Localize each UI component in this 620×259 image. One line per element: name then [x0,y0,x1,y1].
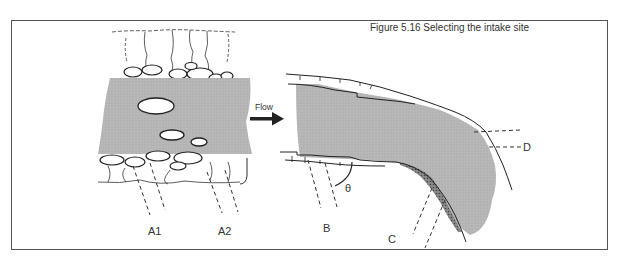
river-water-bend [296,84,496,235]
flow-label: Flow [255,102,274,112]
river-bend: θ B C D [280,74,531,248]
intake-site-diagram: A1 A2 Flow θ B [0,0,620,259]
arrow-shaft-icon [250,117,274,121]
label-a2: A2 [218,225,231,237]
straight-reach: A1 A2 [98,30,252,237]
arrow-head-icon [272,112,284,126]
upper-bank [112,30,235,72]
intake-a1 [133,163,165,215]
label-d: D [523,141,531,153]
flow-arrow: Flow [250,102,284,126]
label-b: B [323,222,330,234]
label-c: C [388,233,396,245]
label-theta: θ [345,182,351,194]
label-a1: A1 [148,225,161,237]
river-water-left [98,78,252,154]
intake-b [308,160,337,208]
